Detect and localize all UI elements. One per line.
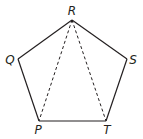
pentagon-diagram: RSTPQ	[0, 0, 143, 139]
vertex-label-P: P	[34, 123, 42, 137]
edge-RS	[72, 20, 127, 59]
vertex-label-R: R	[68, 4, 76, 18]
vertex-label-S: S	[129, 53, 137, 67]
edge-ST	[106, 59, 127, 121]
edge-PQ	[18, 59, 39, 121]
dashed-diagonals	[39, 20, 106, 121]
edge-QR	[18, 20, 72, 59]
vertex-label-Q: Q	[5, 53, 14, 67]
diagonal-RP	[39, 20, 72, 121]
diagonal-RT	[72, 20, 106, 121]
pentagon-edges	[18, 20, 127, 121]
vertex-label-T: T	[103, 123, 112, 137]
vertex-labels: RSTPQ	[5, 4, 137, 137]
